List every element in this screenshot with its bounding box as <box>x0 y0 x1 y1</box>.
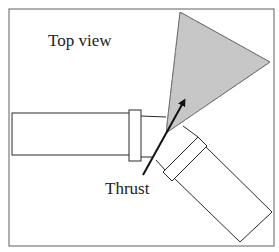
title-label: Top view <box>48 31 112 50</box>
diagram-canvas: Top view Thrust <box>0 0 279 252</box>
inlet-pipe <box>12 113 130 155</box>
outlet-neck-lower <box>156 160 165 170</box>
spray-cone <box>166 12 270 133</box>
thrust-label: Thrust <box>105 179 150 198</box>
outlet-neck <box>183 126 198 137</box>
inlet-flange <box>129 110 141 161</box>
inlet-neck <box>141 116 166 117</box>
